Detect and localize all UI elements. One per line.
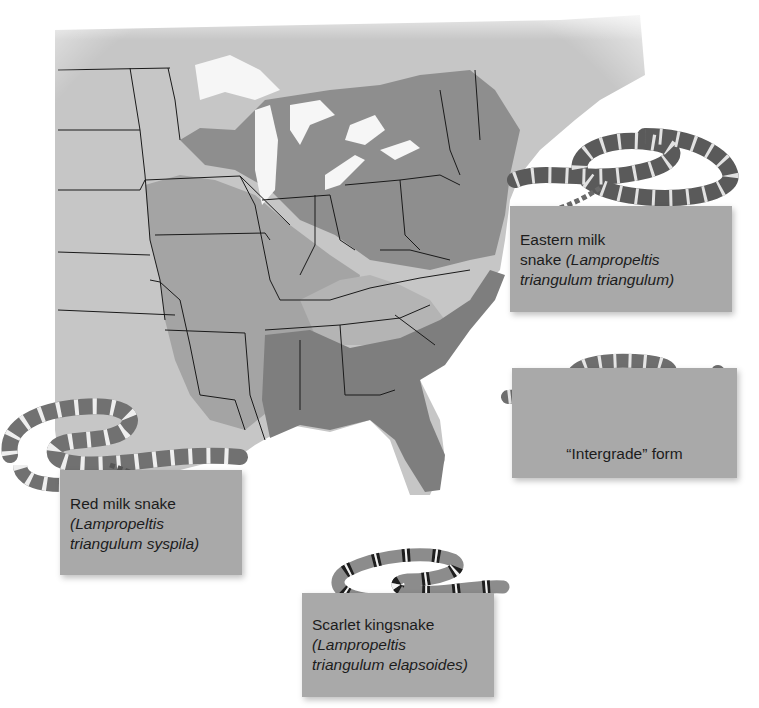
scarlet-scientific-name-open: (Lampropeltis [312,635,484,655]
eastern-scientific-name-open: (Lampropeltis [566,251,660,268]
scarlet-kingsnake-label: Scarlet kingsnake (Lampropeltis triangul… [302,593,494,697]
snake-range-figure: Eastern milk snake (Lampropeltis triangu… [0,0,759,708]
intergrade-form-label: “Intergrade” form [512,368,737,478]
eastern-scientific-name-close: triangulum triangulum) [520,271,674,288]
red-common-name: Red milk snake [70,494,232,514]
scarlet-common-name: Scarlet kingsnake [312,615,484,635]
scarlet-scientific-name-close: triangulum elapsoides) [312,655,484,675]
eastern-common-name-line1: Eastern milk [520,231,605,248]
eastern-milk-snake-illustration [505,128,755,218]
intergrade-common-name: “Intergrade” form [512,444,737,464]
red-milk-snake-label: Red milk snake (Lampropeltis triangulum … [60,470,242,575]
red-scientific-name-open: (Lampropeltis [70,514,232,534]
eastern-common-name-line2: snake [520,251,561,268]
eastern-milk-snake-label: Eastern milk snake (Lampropeltis triangu… [510,206,732,312]
red-scientific-name-close: triangulum syspila) [70,534,232,554]
